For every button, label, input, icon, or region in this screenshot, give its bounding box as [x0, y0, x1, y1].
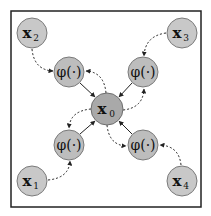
svg-text:x: x — [173, 172, 183, 190]
svg-text:φ(·): φ(·) — [56, 137, 81, 153]
svg-text:3: 3 — [183, 33, 189, 43]
svg-text:φ(·): φ(·) — [130, 64, 155, 80]
node-x3: x 3 — [167, 18, 197, 48]
node-x1: x 1 — [17, 166, 47, 196]
node-phi-tl: φ(·) — [54, 57, 84, 87]
svg-text:φ(·): φ(·) — [56, 64, 81, 80]
svg-text:2: 2 — [33, 33, 39, 43]
node-phi-bl: φ(·) — [54, 130, 84, 160]
node-phi-br: φ(·) — [128, 130, 158, 160]
svg-text:x: x — [98, 100, 108, 118]
svg-text:φ(·): φ(·) — [130, 137, 155, 153]
node-x0: x 0 — [91, 93, 123, 125]
node-phi-tr: φ(·) — [128, 57, 158, 87]
graph-diagram: x 2 x 3 x 1 x 4 φ(·) φ(·) φ(·) φ(·) x 0 — [0, 0, 211, 216]
svg-text:4: 4 — [183, 181, 189, 191]
node-x4: x 4 — [167, 166, 197, 196]
svg-text:x: x — [173, 24, 183, 42]
svg-text:1: 1 — [33, 181, 39, 191]
svg-text:x: x — [23, 24, 33, 42]
node-x2: x 2 — [17, 18, 47, 48]
svg-text:0: 0 — [109, 109, 115, 119]
svg-text:x: x — [23, 172, 33, 190]
